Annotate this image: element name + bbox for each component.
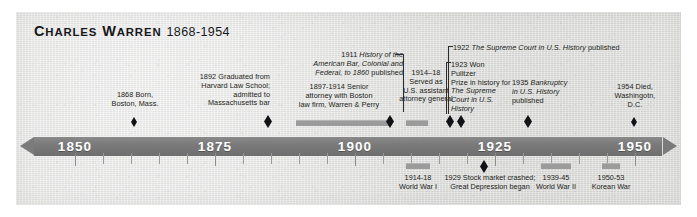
axis-tick (495, 153, 496, 166)
axis-tick (271, 153, 272, 164)
marker-assistant-attorney-general-span[interactable] (406, 120, 428, 126)
leader-1922-horizontal (448, 46, 453, 47)
axis-tick (243, 153, 244, 164)
leader-1922-vertical (448, 46, 449, 114)
subject-name: CHARLES WARREN (34, 23, 161, 39)
axis-tick (635, 153, 636, 166)
label-1935-italic-line2: in U.S. History (512, 87, 559, 96)
marker-world-war-ii[interactable] (541, 163, 571, 169)
label-1935-italic-line1: Bankruptcy (531, 78, 568, 87)
label-pulitzer-1923: 1923 Won Pulitzer Prize in history for T… (451, 61, 511, 114)
label-supreme-court-1922: 1922 The Supreme Court in U.S. History p… (453, 44, 631, 53)
label-harvard-1892: 1892 Graduated from Harvard Law School; … (186, 73, 270, 108)
leader-1923-horizontal (446, 62, 451, 63)
label-ww2-line2: World War II (525, 183, 587, 192)
axis-label-1950: 1950 (618, 139, 652, 154)
label-1922-year: 1922 (453, 43, 472, 52)
subject-years: 1868-1954 (166, 25, 229, 39)
page-title: CHARLES WARREN1868-1954 (34, 22, 230, 40)
axis-tick (579, 153, 580, 164)
label-attorney-1897-1914: 1897-1914 Senior attorney with Boston la… (287, 83, 391, 109)
axis-tick (327, 153, 328, 164)
label-died-1954: 1954 Died, Washingotn, D.C. (600, 83, 670, 109)
label-1935-published: published (512, 97, 574, 106)
label-pulitzer-italic-line3: History (451, 104, 474, 113)
marker-world-war-i[interactable] (406, 163, 430, 169)
label-korea-line2: Korean War (581, 183, 641, 192)
label-pulitzer-italic-line1: The Supreme (451, 86, 496, 95)
axis-tick (467, 153, 468, 164)
axis-tick (215, 153, 216, 166)
label-1911-italic-line3: Federal, to 1860 (315, 68, 369, 77)
axis-label-1850: 1850 (58, 139, 92, 154)
label-harvard-line4: Massachusetts bar (186, 99, 270, 108)
axis-tick (75, 153, 76, 166)
label-pulitzer-italic-line2: Court in U.S. (451, 95, 493, 104)
axis-tick (159, 153, 160, 164)
label-1935-year: 1935 (512, 78, 531, 87)
label-1911-italic-line2: American Bar, Colonial and (313, 59, 403, 68)
axis-label-1900: 1900 (338, 139, 372, 154)
label-1911-year: 1911 (341, 50, 359, 59)
axis-tick (187, 153, 188, 164)
label-1922-italic: The Supreme Court in U.S. History (472, 43, 586, 52)
leader-1923-vertical (446, 62, 447, 114)
axis-label-1925: 1925 (478, 139, 512, 154)
axis-tick (439, 153, 440, 164)
axis-arrow-right-icon (663, 137, 677, 155)
marker-korean-war[interactable] (602, 163, 620, 169)
label-world-war-ii: 1939-45 World War II (525, 174, 587, 192)
label-history-american-bar-1911: 1911 History of the American Bar, Coloni… (290, 51, 403, 77)
label-bankruptcy-1935: 1935 Bankruptcy in U.S. History publishe… (512, 79, 574, 105)
axis-tick (131, 153, 132, 164)
label-attorney-line3: law firm, Warren & Perry (287, 101, 391, 110)
marker-attorney-1897-1914[interactable] (296, 120, 390, 126)
timeline-axis: 1850 1875 1900 1925 1950 (16, 133, 681, 163)
label-born-line2: Boston, Mass. (98, 100, 172, 109)
axis-label-1875: 1875 (198, 139, 232, 154)
axis-arrow-left-icon (20, 137, 34, 155)
axis-tick (355, 153, 356, 166)
timeline-figure: CHARLES WARREN1868-1954 1850 1875 1900 1… (0, 0, 697, 217)
axis-tick (103, 153, 104, 164)
axis-tick (523, 153, 524, 164)
label-pulitzer-line1: 1923 Won Pulitzer (451, 61, 511, 79)
label-1922-published: published (586, 43, 620, 52)
label-korean-war: 1950-53 Korean War (581, 174, 641, 192)
axis-tick (383, 153, 384, 164)
axis-tick (299, 153, 300, 164)
label-died-line3: D.C. (600, 101, 670, 110)
label-born-1868: 1868 Born, Boston, Mass. (98, 91, 172, 109)
